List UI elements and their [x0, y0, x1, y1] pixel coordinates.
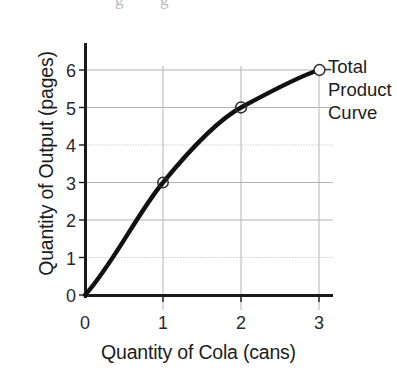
data-point-marker-3-6: [314, 65, 325, 76]
total-product-curve-chart: g g: [0, 0, 397, 371]
horizontal-gridlines: [85, 70, 333, 295]
x-tick-label-1: 1: [151, 314, 175, 332]
x-tick-label-2: 2: [229, 314, 253, 332]
x-axis-title: Quantity of Cola (cans): [0, 341, 397, 364]
curve-label-line-1: Total: [328, 55, 392, 78]
curve-label: Total Product Curve: [328, 55, 392, 124]
curve-label-line-2: Product: [328, 78, 392, 101]
y-axis-title: Quantity of Output (pages): [35, 14, 58, 314]
data-point-marker-1-3: [158, 177, 168, 187]
x-tick-label-3: 3: [307, 314, 331, 332]
x-tick-label-0: 0: [73, 314, 97, 332]
data-point-marker-2-5: [236, 102, 247, 113]
curve-label-line-3: Curve: [328, 101, 392, 124]
